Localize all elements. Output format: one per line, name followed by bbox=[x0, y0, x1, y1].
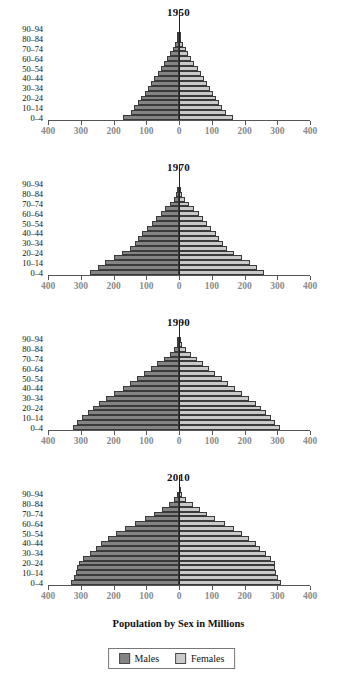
bar-female bbox=[179, 556, 271, 561]
bar-male bbox=[131, 110, 179, 115]
bar-female bbox=[179, 81, 207, 86]
x-axis-tick bbox=[114, 276, 115, 280]
bar-male bbox=[161, 211, 179, 216]
bar-female bbox=[179, 96, 216, 101]
panel-title: 1990 bbox=[0, 316, 343, 328]
bar-female bbox=[179, 512, 207, 517]
bar-male bbox=[114, 255, 180, 260]
x-tick-label: 300 bbox=[74, 281, 88, 291]
y-tick-label: 60–64 bbox=[22, 54, 43, 64]
bar-male bbox=[162, 507, 179, 512]
bar-male bbox=[82, 415, 179, 420]
pyramid-panel-1950: 195090–9480–8470–7460–6450–5440–4430–342… bbox=[0, 0, 343, 155]
pyramid-panels-container: 195090–9480–8470–7460–6450–5440–4430–342… bbox=[0, 0, 343, 640]
x-axis-tick-labels: 4003002001000100200300400 bbox=[0, 436, 343, 448]
bar-female bbox=[179, 396, 249, 401]
y-tick-label: 80–84 bbox=[22, 344, 43, 354]
bar-female bbox=[179, 105, 222, 110]
bar-female bbox=[179, 241, 223, 246]
plot-area bbox=[48, 177, 310, 275]
bar-male bbox=[122, 251, 179, 256]
x-axis-caption-text: Population by Sex in Millions bbox=[113, 618, 245, 629]
x-tick-label: 200 bbox=[237, 281, 251, 291]
bar-male bbox=[138, 236, 179, 241]
legend: Males Females bbox=[108, 648, 236, 669]
x-tick-label: 100 bbox=[139, 126, 153, 136]
x-axis-tick bbox=[81, 586, 82, 590]
bar-male bbox=[125, 526, 179, 531]
x-tick-label: 100 bbox=[205, 281, 219, 291]
bar-female bbox=[179, 66, 198, 71]
x-axis-tick-labels: 4003002001000100200300400 bbox=[0, 126, 343, 138]
legend-item-males: Males bbox=[119, 653, 159, 664]
x-tick-label: 400 bbox=[41, 591, 55, 601]
x-axis-tick bbox=[277, 276, 278, 280]
bar-female bbox=[179, 110, 226, 115]
x-tick-label: 400 bbox=[41, 281, 55, 291]
x-tick-label: 0 bbox=[177, 436, 182, 446]
bar-male bbox=[83, 556, 179, 561]
x-axis-tick bbox=[81, 431, 82, 435]
bar-female bbox=[179, 357, 197, 362]
bar-female bbox=[179, 381, 228, 386]
legend-item-females: Females bbox=[175, 653, 224, 664]
bar-female bbox=[179, 231, 216, 236]
y-tick-label: 80–84 bbox=[22, 34, 43, 44]
x-axis-tick bbox=[48, 586, 49, 590]
bar-male bbox=[157, 361, 179, 366]
y-tick-label: 70–74 bbox=[22, 199, 43, 209]
x-tick-label: 200 bbox=[237, 436, 251, 446]
x-tick-label: 200 bbox=[106, 436, 120, 446]
bar-male bbox=[77, 565, 179, 570]
bar-male bbox=[135, 241, 179, 246]
bar-female bbox=[179, 401, 256, 406]
y-tick-label: 30–34 bbox=[22, 238, 43, 248]
bar-female bbox=[179, 541, 256, 546]
bar-male bbox=[145, 516, 179, 521]
female-swatch-icon bbox=[175, 653, 186, 664]
center-axis-line bbox=[179, 475, 180, 585]
y-tick-label: 40–44 bbox=[22, 538, 43, 548]
bar-male bbox=[145, 91, 179, 96]
x-axis-tick bbox=[245, 276, 246, 280]
bar-female bbox=[179, 502, 193, 507]
bar-female bbox=[179, 565, 275, 570]
bar-female bbox=[179, 546, 260, 551]
y-tick-label: 0–4 bbox=[31, 578, 43, 588]
panel-title: 1950 bbox=[0, 6, 343, 18]
bar-female bbox=[179, 420, 275, 425]
x-axis-tick bbox=[81, 276, 82, 280]
y-tick-label: 90–94 bbox=[22, 24, 43, 34]
x-axis-tick bbox=[179, 586, 180, 590]
x-axis-tick bbox=[212, 121, 213, 125]
plot-area bbox=[48, 487, 310, 585]
bar-male bbox=[167, 56, 179, 61]
x-tick-label: 100 bbox=[139, 436, 153, 446]
y-tick-label: 80–84 bbox=[22, 499, 43, 509]
bar-male bbox=[137, 376, 179, 381]
y-tick-label: 30–34 bbox=[22, 83, 43, 93]
x-tick-label: 200 bbox=[237, 126, 251, 136]
pyramid-panel-2010: 201090–9480–8470–7460–6450–5440–4430–342… bbox=[0, 465, 343, 640]
bar-male bbox=[93, 406, 179, 411]
bar-female bbox=[179, 246, 227, 251]
y-tick-label: 0–4 bbox=[31, 423, 43, 433]
bar-female bbox=[179, 536, 249, 541]
bar-female bbox=[179, 206, 194, 211]
bar-female bbox=[179, 100, 219, 105]
bar-male bbox=[147, 226, 179, 231]
bar-male bbox=[134, 105, 179, 110]
x-tick-label: 100 bbox=[139, 281, 153, 291]
y-tick-label: 70–74 bbox=[22, 44, 43, 54]
bar-female bbox=[179, 352, 191, 357]
x-axis-tick-labels: 4003002001000100200300400 bbox=[0, 591, 343, 603]
bar-female bbox=[179, 497, 186, 502]
legend-label-females: Females bbox=[191, 653, 224, 664]
bar-female bbox=[179, 366, 209, 371]
x-axis-tick bbox=[277, 431, 278, 435]
bar-female bbox=[179, 406, 261, 411]
legend-label-males: Males bbox=[135, 653, 159, 664]
bar-female bbox=[179, 265, 257, 270]
bar-male bbox=[130, 246, 179, 251]
population-pyramid-figure: 195090–9480–8470–7460–6450–5440–4430–342… bbox=[0, 0, 343, 684]
